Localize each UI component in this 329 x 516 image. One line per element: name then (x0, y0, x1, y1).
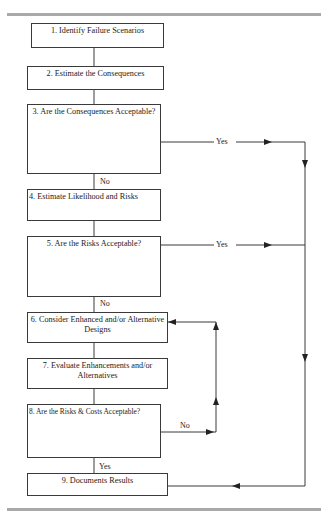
step-8-label: 8. Are the Risks & Costs Acceptable? (28, 405, 160, 417)
step-2-label: 2. Estimate the Consequences (28, 67, 163, 79)
step-9-label: 9. Documents Results (28, 474, 167, 486)
step-5-label: 5. Are the Risks Acceptable? (28, 237, 160, 249)
step-3-yes-label: Yes (216, 137, 228, 146)
step-8-decision-box: 8. Are the Risks & Costs Acceptable? (27, 404, 161, 458)
step-6-label: 6. Consider Enhanced and/or Alternative … (28, 313, 167, 335)
step-1-label: 1. Identify Failure Scenarios (32, 24, 163, 36)
arrow-up-icon (213, 397, 219, 405)
arrow-up-icon (213, 322, 219, 330)
step-8-no-label: No (180, 421, 190, 430)
arrow-left-icon (168, 319, 176, 325)
step-2-box: 2. Estimate the Consequences (27, 66, 164, 90)
step-3-decision-box: 3. Are the Consequences Acceptable? (27, 104, 161, 174)
arrowheads (168, 139, 308, 489)
step-4-label: 4. Estimate Likelihood and Risks (28, 190, 160, 202)
step-9-box: 9. Documents Results (27, 473, 168, 496)
step-5-no-label: No (100, 299, 110, 308)
step-4-box: 4. Estimate Likelihood and Risks (27, 189, 161, 221)
step-6-box: 6. Consider Enhanced and/or Alternative … (27, 312, 168, 343)
step-3-label: 3. Are the Consequences Acceptable? (28, 105, 160, 117)
step-7-box: 7. Evaluate Enhancements and/or Alternat… (27, 358, 168, 389)
arrow-right-icon (206, 429, 214, 435)
arrow-down-icon (302, 160, 308, 168)
step-5-decision-box: 5. Are the Risks Acceptable? (27, 236, 161, 297)
step-3-no-label: No (100, 177, 110, 186)
step-8-yes-label: Yes (99, 462, 111, 471)
arrow-right-icon (264, 139, 272, 145)
step-7-label: 7. Evaluate Enhancements and/or Alternat… (28, 359, 167, 381)
step-5-yes-label: Yes (216, 240, 228, 249)
arrow-right-icon (264, 242, 272, 248)
arrow-left-icon (232, 483, 240, 489)
step-1-box: 1. Identify Failure Scenarios (31, 23, 164, 48)
arrow-down-icon (302, 354, 308, 362)
